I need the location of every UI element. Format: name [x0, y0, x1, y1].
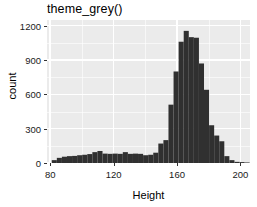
x-tick-mark [177, 163, 178, 166]
x-axis: 80120160200 [0, 0, 257, 207]
x-tick-label: 160 [157, 169, 197, 180]
x-axis-title: Height [47, 189, 250, 201]
x-tick-label: 200 [220, 169, 257, 180]
x-tick-mark [240, 163, 241, 166]
x-tick-mark [114, 163, 115, 166]
ggplot-histogram-figure: theme_grey() count 03006009001200 801201… [0, 0, 257, 207]
x-tick-label: 80 [30, 169, 70, 180]
x-tick-mark [50, 163, 51, 166]
x-tick-label: 120 [94, 169, 134, 180]
